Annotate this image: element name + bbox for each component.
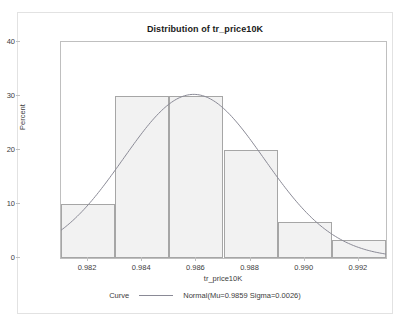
- x-tick-mark: [250, 257, 251, 261]
- y-axis-label: Percent: [18, 104, 27, 130]
- x-tick-mark: [358, 257, 359, 261]
- y-tick-label: 0: [0, 253, 15, 262]
- x-axis-label: tr_price10K: [60, 274, 386, 283]
- y-tick-label: 10: [0, 199, 15, 208]
- y-tick-mark: [16, 95, 20, 96]
- x-tick-label: 0.982: [67, 263, 107, 272]
- y-tick-mark: [16, 149, 20, 150]
- legend-entry-label: Normal(Mu=0.9859 Sigma=0.0026): [183, 291, 301, 300]
- y-axis: Percent 010203040: [0, 0, 60, 258]
- x-tick-label: 0.992: [338, 263, 378, 272]
- x-tick-mark: [304, 257, 305, 261]
- plot-inner: [61, 42, 386, 258]
- y-tick-mark: [16, 203, 20, 204]
- y-tick-mark: [16, 257, 20, 258]
- page-title: Distribution of tr_price10K: [17, 24, 393, 34]
- y-tick-label: 40: [0, 37, 15, 46]
- normal-curve: [61, 42, 386, 258]
- legend-group-label: Curve: [109, 291, 129, 300]
- x-tick-label: 0.984: [121, 263, 161, 272]
- x-tick-label: 0.988: [230, 263, 270, 272]
- plot-area: [60, 41, 387, 259]
- x-tick-label: 0.990: [284, 263, 324, 272]
- y-tick-mark: [16, 41, 20, 42]
- x-tick-mark: [195, 257, 196, 261]
- legend-line-swatch: [139, 295, 173, 296]
- chart-figure: Distribution of tr_price10K Percent 0102…: [0, 0, 409, 327]
- x-tick-mark: [141, 257, 142, 261]
- y-tick-label: 20: [0, 145, 15, 154]
- x-tick-mark: [87, 257, 88, 261]
- y-tick-label: 30: [0, 91, 15, 100]
- chart-legend: Curve Normal(Mu=0.9859 Sigma=0.0026): [17, 291, 393, 300]
- x-tick-label: 0.986: [175, 263, 215, 272]
